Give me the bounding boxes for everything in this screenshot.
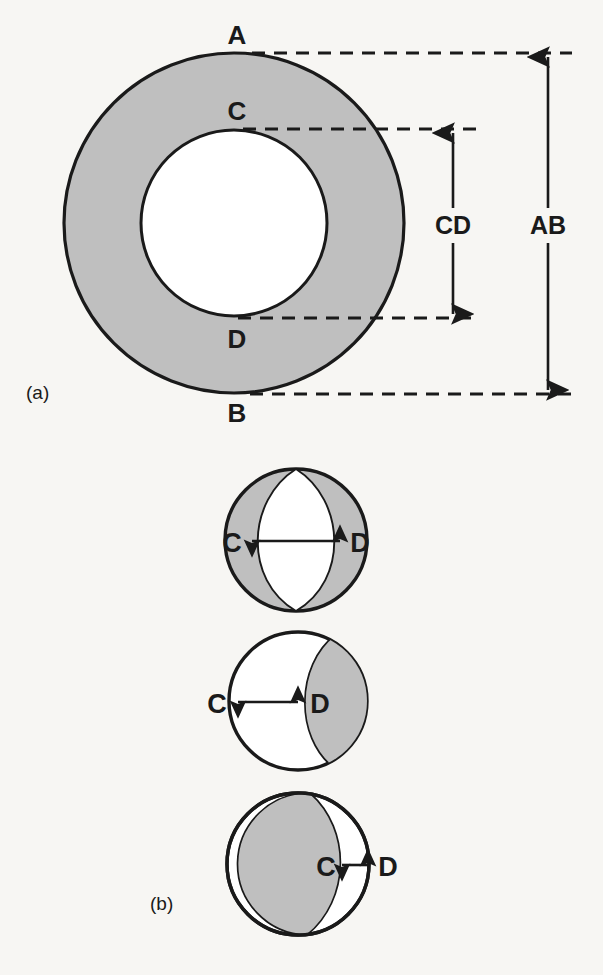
- label-point-A: A: [228, 20, 247, 50]
- circle-1-label-C: C: [222, 528, 242, 558]
- figure-svg: A C D B CD AB (a) C D: [0, 0, 603, 975]
- circle-2-label-C: C: [207, 689, 227, 719]
- figure-container: A C D B CD AB (a) C D: [0, 0, 603, 975]
- circle-3-label-D: D: [378, 852, 398, 882]
- label-dimension-AB: AB: [530, 211, 566, 239]
- panel-a-annulus: A C D B CD AB (a): [26, 20, 572, 428]
- annulus-inner-circle: [141, 130, 327, 316]
- circle-1-label-D: D: [350, 528, 370, 558]
- circle-crescent-right-white: C D: [227, 793, 398, 935]
- circle-3-label-C: C: [316, 852, 336, 882]
- label-dimension-CD: CD: [435, 211, 471, 239]
- label-point-C: C: [228, 96, 247, 126]
- label-point-B: B: [228, 398, 247, 428]
- panel-label-b: (b): [150, 893, 173, 914]
- label-point-D: D: [228, 324, 247, 354]
- circle-crescent-right-gray: C D: [207, 632, 385, 770]
- panel-label-a: (a): [26, 382, 49, 403]
- circle-lens-wide: C D: [222, 469, 370, 611]
- panel-b-circles: C D C D C D: [150, 469, 398, 935]
- circle-2-label-D: D: [310, 689, 330, 719]
